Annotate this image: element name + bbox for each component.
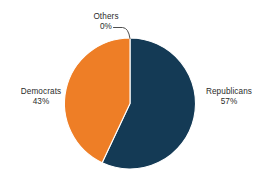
slice-label-democrats: Democrats 43% bbox=[8, 87, 74, 108]
pie-chart: Others 0% Democrats 43% Republicans 57% bbox=[0, 0, 265, 182]
slice-label-democrats-name: Democrats bbox=[8, 87, 74, 97]
slice-label-others-name: Others bbox=[82, 12, 130, 22]
slice-label-republicans-name: Republicans bbox=[194, 87, 264, 97]
slice-label-democrats-percent: 43% bbox=[8, 97, 74, 107]
slice-label-others-percent: 0% bbox=[82, 22, 130, 32]
slice-label-others: Others 0% bbox=[82, 12, 130, 33]
pie-slices bbox=[64, 38, 195, 169]
slice-label-republicans-percent: 57% bbox=[194, 97, 264, 107]
slice-label-republicans: Republicans 57% bbox=[194, 87, 264, 108]
